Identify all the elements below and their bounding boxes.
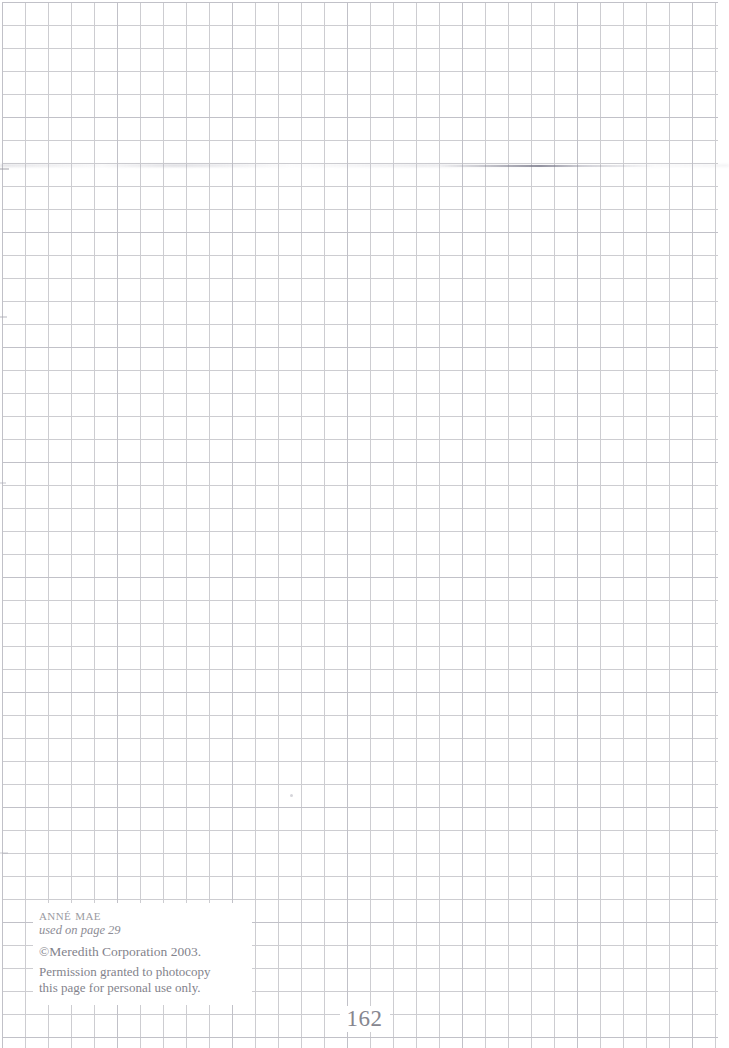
graph-paper-grid-accent bbox=[2, 2, 718, 1048]
used-on-page-note: used on page 29 bbox=[39, 923, 246, 938]
page-number-value: 162 bbox=[340, 1006, 390, 1032]
permission-line-1: Permission granted to photocopy bbox=[39, 964, 246, 980]
permission-line-2: this page for personal use only. bbox=[39, 980, 246, 996]
page-number: 162 bbox=[0, 1006, 729, 1032]
pattern-name: Anné Mae bbox=[39, 907, 246, 924]
permission-notice: Permission granted to photocopy this pag… bbox=[39, 964, 246, 996]
pattern-page: Anné Mae used on page 29 ©Meredith Corpo… bbox=[0, 0, 729, 1048]
copyright-notice: ©Meredith Corporation 2003. bbox=[39, 944, 246, 960]
credit-block: Anné Mae used on page 29 ©Meredith Corpo… bbox=[33, 903, 252, 1005]
